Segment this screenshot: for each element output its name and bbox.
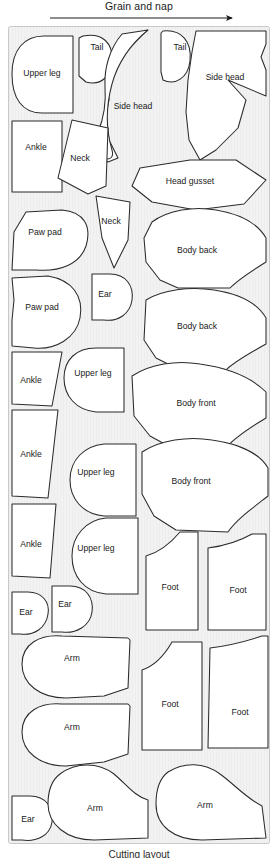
pattern-piece-foot-2 (208, 534, 266, 630)
label-ankle-4: Ankle (20, 539, 42, 549)
figure-caption: Cutting layout (0, 849, 278, 858)
pattern-piece-arm-2 (22, 704, 130, 766)
label-arm-2: Arm (64, 722, 80, 732)
label-upper-leg-1: Upper leg (23, 68, 60, 78)
pattern-piece-upper-leg-3 (70, 444, 136, 516)
label-ankle-2: Ankle (20, 375, 42, 385)
pattern-piece-arm-1 (22, 636, 130, 698)
label-body-back-1: Body back (177, 245, 218, 255)
pattern-piece-ankle-1 (12, 121, 62, 192)
fabric-panel: Upper leg Tail Side head Tail Side head … (0, 0, 278, 858)
label-body-front-1: Body front (176, 398, 216, 408)
label-arm-3: Arm (87, 803, 103, 813)
label-neck-2: Neck (101, 216, 121, 226)
label-foot-3: Foot (161, 699, 179, 709)
label-ankle-1: Ankle (25, 142, 47, 152)
label-upper-leg-3: Upper leg (77, 467, 114, 477)
label-side-head-1: Side head (114, 101, 153, 111)
label-tail-1: Tail (91, 42, 104, 52)
label-arm-4: Arm (197, 800, 213, 810)
label-ear-1: Ear (98, 289, 112, 299)
pattern-piece-upper-leg-4 (72, 518, 138, 594)
label-arm-1: Arm (64, 653, 80, 663)
label-side-head-2: Side head (206, 72, 245, 82)
label-upper-leg-4: Upper leg (77, 543, 114, 553)
label-head-gusset: Head gusset (166, 176, 215, 186)
label-body-back-2: Body back (177, 321, 218, 331)
label-ankle-3: Ankle (20, 449, 42, 459)
label-upper-leg-2: Upper leg (74, 368, 111, 378)
label-neck-1: Neck (70, 153, 90, 163)
label-foot-4: Foot (231, 707, 249, 717)
label-foot-2: Foot (229, 585, 247, 595)
label-paw-pad-2: Paw pad (25, 302, 59, 312)
label-ear-4: Ear (21, 814, 35, 824)
label-body-front-2: Body front (171, 476, 211, 486)
label-ear-2: Ear (19, 607, 33, 617)
label-ear-3: Ear (58, 599, 72, 609)
cutting-layout-figure: Grain and nap (0, 0, 278, 858)
label-paw-pad-1: Paw pad (28, 227, 62, 237)
label-foot-1: Foot (161, 582, 179, 592)
label-tail-2: Tail (174, 42, 187, 52)
pattern-piece-foot-4 (208, 636, 268, 748)
